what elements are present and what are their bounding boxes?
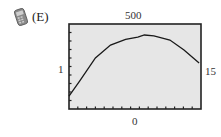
plot-area <box>0 0 221 137</box>
